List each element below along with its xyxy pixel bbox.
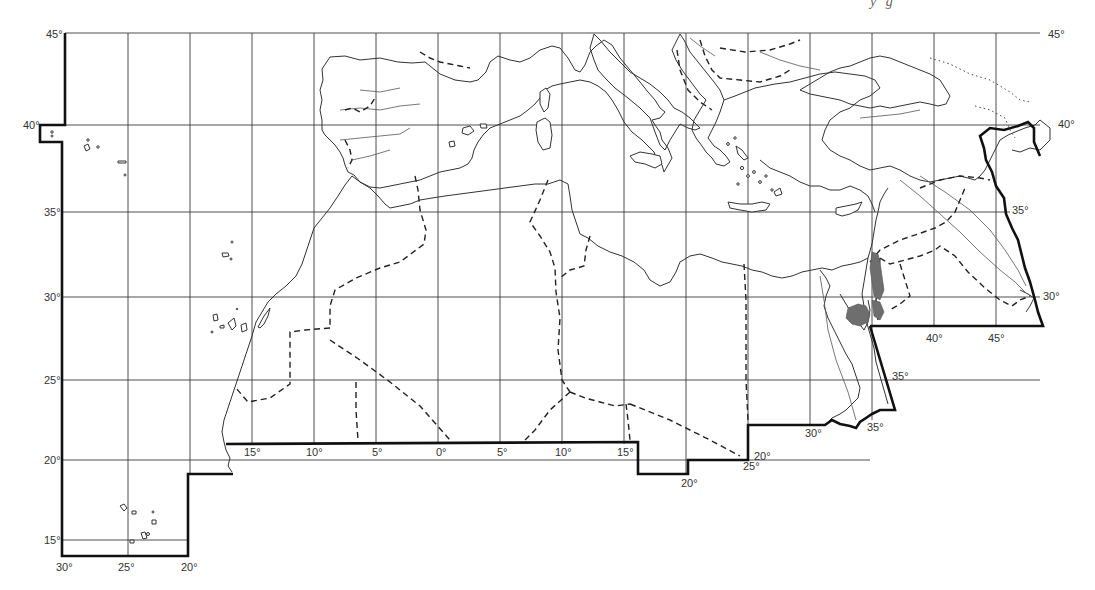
country-borders [236,40,1030,460]
coast-corsica [540,88,550,112]
lon-label-25w: 25° [118,561,135,573]
coast-balearics [462,126,474,135]
coast-mallorca [480,124,487,128]
lon-label-0: 0° [436,446,447,458]
coast-mauritania [224,442,232,472]
shaded-sinai-area [846,304,870,326]
lat-label-45-left: 45° [46,28,63,40]
coast-aegean-turkey [724,72,1050,182]
lat-label-45-right: 45° [1048,28,1065,40]
atlantic-islands [51,131,270,543]
coast-crete [728,202,770,212]
coast-iberia [320,40,672,188]
lon-label-30w: 30° [56,561,73,573]
lon-label-35e: 35° [867,421,884,433]
lon-label-20w: 20° [181,561,198,573]
coast-nile-delta [820,270,860,424]
lat-label-20-step: 20° [754,450,771,462]
lat-label-25-step: 35° [892,370,909,382]
lon-label-30e: 30° [805,427,822,439]
lon-label-5e: 5° [497,446,508,458]
cape-verde-islands [120,504,127,511]
lon-label-40e: 40° [926,332,943,344]
lon-label-45e: 45° [988,332,1005,344]
lon-label-10w: 10° [306,446,323,458]
lon-label-15w: 15° [244,446,261,458]
map-container: 45° 40° 35° 30° 25° 20° 15° 45° 40° 35° … [0,0,1095,590]
rivers [340,38,1026,420]
graticule [62,33,1040,556]
aegean-islands [727,137,782,196]
lon-label-10e: 10° [555,446,572,458]
coastlines [222,34,1050,472]
outline-map: 45° 40° 35° 30° 25° 20° 15° 45° 40° 35° … [0,0,1095,590]
coast-ibiza [449,141,455,147]
lat-label-40-right: 40° [1058,118,1075,130]
coast-black-sea [800,56,950,108]
coast-sicily [630,152,662,168]
coast-balkans-greece [672,34,730,166]
lon-label-5w: 5° [372,446,383,458]
lat-label-30-right: 30° [1043,290,1060,302]
shaded-negev-area [872,300,884,320]
lat-label-30-left: 30° [44,291,61,303]
lat-label-35-left: 35° [44,206,61,218]
lat-label-25-left: 25° [44,374,61,386]
lat-label-35-right: 35° [1012,204,1029,216]
tick-labels: 45° 40° 35° 30° 25° 20° 15° 45° 40° 35° … [23,28,1075,573]
coast-north-africa [352,176,868,286]
lon-label-20e: 20° [681,477,698,489]
lat-label-40-left: 40° [23,119,40,131]
lat-label-15-left: 15° [44,534,61,546]
lon-label-15e: 15° [617,446,634,458]
lat-label-20-left: 20° [44,454,61,466]
coast-sardinia [536,118,552,150]
coast-atlantic-africa [222,176,352,442]
coast-cyprus [836,202,862,216]
shaded-areas [846,252,884,326]
